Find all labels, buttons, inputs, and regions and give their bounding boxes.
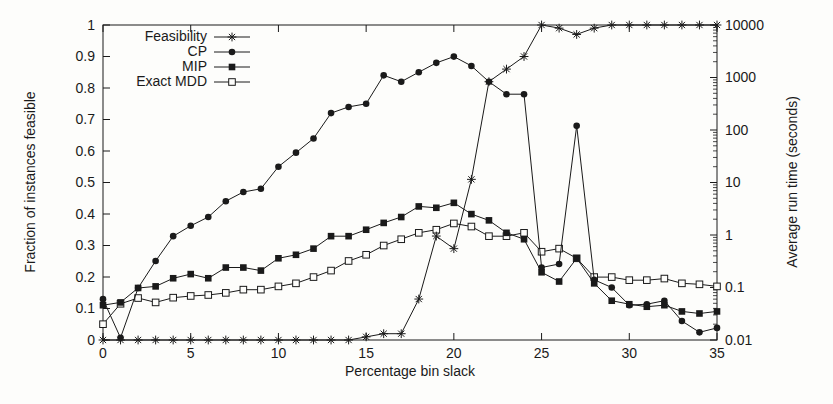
series-line — [103, 223, 717, 324]
x-tick-label: 0 — [99, 345, 107, 361]
filled-square-marker — [258, 267, 265, 274]
y-left-tick-label: 0.6 — [76, 143, 96, 159]
asterisk-marker — [292, 336, 301, 345]
x-tick-label: 25 — [534, 345, 550, 361]
filled-circle-marker — [451, 53, 458, 60]
asterisk-marker — [228, 32, 237, 41]
filled-circle-marker — [433, 60, 440, 67]
asterisk-marker — [555, 24, 564, 33]
filled-circle-marker — [661, 297, 668, 304]
figure-canvas: 0510152025303500.10.20.30.40.50.60.70.80… — [0, 0, 833, 404]
asterisk-marker — [502, 65, 511, 74]
y-left-tick-label: 0.1 — [76, 300, 96, 316]
asterisk-marker — [99, 336, 108, 345]
y-right-tick-label: 10 — [725, 174, 741, 190]
asterisk-marker — [607, 21, 616, 30]
y-left-tick-label: 0.3 — [76, 237, 96, 253]
open-square-marker — [486, 233, 493, 240]
x-tick-label: 35 — [709, 345, 725, 361]
filled-square-marker — [275, 255, 282, 262]
filled-circle-marker — [380, 72, 387, 79]
filled-circle-marker — [258, 185, 265, 192]
asterisk-marker — [186, 336, 195, 345]
filled-circle-marker — [100, 296, 107, 303]
x-tick-label: 30 — [621, 345, 637, 361]
open-square-marker — [328, 267, 335, 274]
filled-circle-marker — [626, 302, 633, 309]
filled-circle-marker — [468, 63, 475, 70]
asterisk-marker — [344, 336, 353, 345]
asterisk-marker — [327, 336, 336, 345]
filled-circle-marker — [223, 198, 230, 205]
asterisk-marker — [467, 175, 476, 184]
asterisk-marker — [432, 232, 441, 241]
x-tick-label: 15 — [358, 345, 374, 361]
y-left-tick-label: 0.4 — [76, 206, 96, 222]
asterisk-marker — [660, 21, 669, 30]
asterisk-marker — [678, 21, 687, 30]
y-right-tick-label: 100 — [725, 122, 749, 138]
filled-square-marker — [363, 226, 370, 233]
legend-label-cp: CP — [62, 44, 207, 59]
open-square-marker — [661, 275, 668, 282]
asterisk-marker — [397, 329, 406, 338]
asterisk-marker — [414, 295, 423, 304]
y-left-tick-label: 0 — [87, 332, 95, 348]
asterisk-marker — [239, 336, 248, 345]
open-square-marker — [205, 292, 212, 299]
filled-square-marker — [451, 200, 458, 207]
open-square-marker — [240, 286, 247, 293]
open-square-marker-icon — [212, 75, 252, 89]
asterisk-marker — [134, 336, 143, 345]
filled-circle-marker — [310, 135, 317, 142]
legend-row-mip: MIP — [62, 59, 252, 74]
open-square-marker — [398, 236, 405, 243]
open-square-marker — [187, 293, 194, 300]
filled-square-marker — [679, 308, 686, 315]
filled-square-marker — [380, 220, 387, 227]
asterisk-marker — [362, 332, 371, 341]
series-line — [103, 203, 717, 314]
asterisk-marker — [151, 336, 160, 345]
x-tick-label: 10 — [271, 345, 287, 361]
open-square-marker — [626, 277, 633, 284]
filled-square-marker — [345, 233, 352, 240]
filled-square-marker — [714, 308, 721, 315]
open-square-marker — [538, 248, 545, 255]
y-right-tick-label: 10000 — [725, 17, 764, 33]
filled-square-marker — [573, 255, 580, 262]
y-right-tick-label: 0.1 — [725, 279, 745, 295]
filled-circle-marker — [591, 277, 598, 284]
filled-circle-marker — [328, 110, 335, 117]
filled-circle-marker — [345, 104, 352, 111]
filled-square-marker-icon — [212, 60, 252, 74]
filled-circle-marker — [187, 222, 194, 229]
legend: Feasibility CP MIP Exact MDD — [62, 29, 252, 89]
open-square-marker — [275, 283, 282, 290]
filled-circle-marker — [240, 189, 247, 196]
filled-square-marker — [556, 278, 563, 285]
filled-square-marker — [415, 203, 422, 210]
legend-row-cp: CP — [62, 44, 252, 59]
open-square-marker — [696, 281, 703, 288]
filled-circle-marker — [275, 163, 282, 170]
filled-circle-marker — [696, 329, 703, 336]
open-square-marker — [468, 223, 475, 230]
open-square-marker — [229, 78, 236, 85]
filled-square-marker — [433, 204, 440, 211]
open-square-marker — [152, 299, 159, 306]
filled-square-marker — [187, 271, 194, 278]
asterisk-marker — [309, 336, 318, 345]
y-right-tick-label: 1 — [725, 227, 733, 243]
filled-circle-marker — [556, 261, 563, 268]
filled-square-marker — [152, 283, 159, 290]
filled-circle-marker — [170, 233, 177, 240]
filled-circle-marker — [205, 214, 212, 221]
asterisk-marker — [274, 336, 283, 345]
asterisk-marker — [537, 21, 546, 30]
y-right-axis-title: Average run time (seconds) — [784, 96, 800, 268]
y-right-tick-label: 0.01 — [725, 332, 752, 348]
open-square-marker — [380, 242, 387, 249]
filled-circle-marker — [538, 264, 545, 271]
asterisk-marker — [625, 21, 634, 30]
